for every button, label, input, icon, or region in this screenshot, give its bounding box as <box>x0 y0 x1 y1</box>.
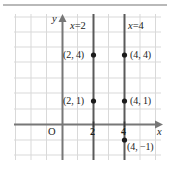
point-4-1 <box>122 98 127 103</box>
tick-label-x-2: 2 <box>90 127 95 137</box>
label-point-4-1: (4, 1) <box>130 96 151 106</box>
point-2-1 <box>91 98 96 103</box>
line-x2-value: 2 <box>81 20 86 31</box>
axis-label-x: x <box>157 127 162 138</box>
label-point-4-minus1: (4, −1) <box>127 142 154 152</box>
label-point-2-4: (2, 4) <box>63 50 84 60</box>
label-origin: O <box>48 127 56 138</box>
label-point-2-1: (2, 1) <box>63 96 84 106</box>
label-point-4-4: (4, 4) <box>130 50 151 60</box>
plot-background <box>14 14 161 160</box>
point-2-4 <box>91 52 96 57</box>
axis-label-y: y <box>52 14 57 25</box>
figure-container: x=2 x=4 (2, 4) (4, 4) (2, 1) (4, 1) (4, … <box>0 0 171 173</box>
tick-label-x-4: 4 <box>121 127 126 137</box>
label-line-x-equals-4: x=4 <box>128 21 144 32</box>
point-4-4 <box>122 52 127 57</box>
label-line-x-equals-2: x=2 <box>70 21 86 32</box>
line-x4-value: 4 <box>139 20 144 31</box>
